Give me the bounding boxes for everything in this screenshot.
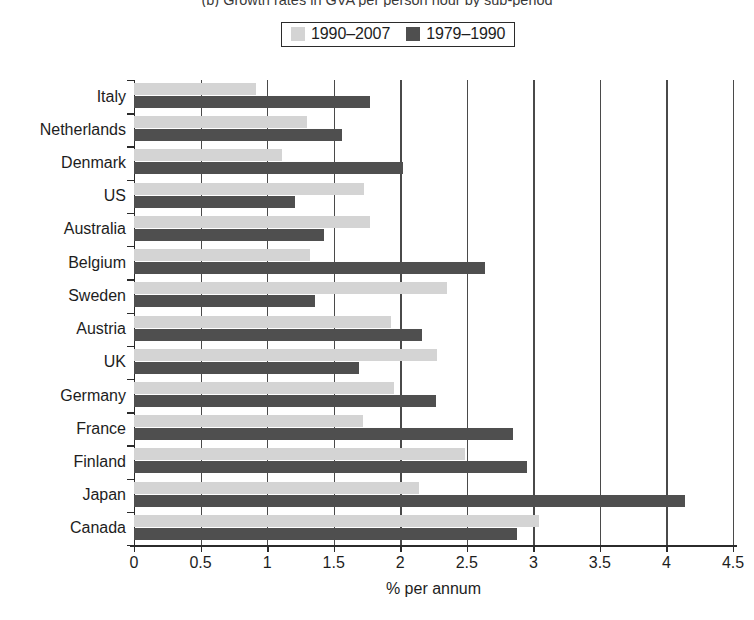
bar-1979-1990 bbox=[134, 395, 436, 407]
x-axis-tick bbox=[267, 545, 268, 552]
y-axis-tick bbox=[127, 180, 134, 181]
chart-legend: 1990–2007 1979–1990 bbox=[281, 22, 515, 47]
bar-group bbox=[134, 113, 733, 146]
y-axis-label-finland: Finland bbox=[74, 454, 126, 470]
y-axis-label-belgium: Belgium bbox=[68, 255, 126, 271]
bar-1990-2007 bbox=[134, 116, 307, 128]
x-axis-tick-label: 2.5 bbox=[456, 554, 478, 572]
bar-group bbox=[134, 445, 733, 478]
y-axis-label-italy: Italy bbox=[97, 89, 126, 105]
bar-1990-2007 bbox=[134, 149, 282, 161]
bar-1990-2007 bbox=[134, 349, 437, 361]
bar-group bbox=[134, 313, 733, 346]
chart-title: (b) Growth rates in GVA per person hour … bbox=[0, 0, 754, 7]
bar-1990-2007 bbox=[134, 249, 310, 261]
bar-1979-1990 bbox=[134, 229, 324, 241]
bar-1990-2007 bbox=[134, 183, 364, 195]
bar-1979-1990 bbox=[134, 96, 370, 108]
bar-group bbox=[134, 246, 733, 279]
y-axis-label-uk: UK bbox=[104, 354, 126, 370]
bar-group bbox=[134, 512, 733, 545]
bar-group bbox=[134, 146, 733, 179]
y-axis-tick bbox=[127, 246, 134, 247]
y-axis-tick bbox=[127, 213, 134, 214]
bar-group bbox=[134, 379, 733, 412]
x-axis-tick bbox=[733, 545, 734, 552]
x-axis-tick bbox=[201, 545, 202, 552]
bar-1979-1990 bbox=[134, 262, 485, 274]
y-axis-tick bbox=[127, 512, 134, 513]
y-axis-label-denmark: Denmark bbox=[61, 155, 126, 171]
y-axis-category-labels: ItalyNetherlandsDenmarkUSAustraliaBelgiu… bbox=[0, 80, 126, 545]
chart-root: (b) Growth rates in GVA per person hour … bbox=[0, 0, 754, 620]
bar-1979-1990 bbox=[134, 428, 513, 440]
bar-1979-1990 bbox=[134, 461, 527, 473]
legend-item-1990-2007: 1990–2007 bbox=[291, 26, 390, 42]
y-axis-tick bbox=[127, 279, 134, 280]
bar-1990-2007 bbox=[134, 216, 370, 228]
legend-label-1990-2007: 1990–2007 bbox=[311, 26, 390, 42]
y-axis-tick bbox=[127, 479, 134, 480]
bar-group bbox=[134, 213, 733, 246]
y-axis-tick bbox=[127, 445, 134, 446]
x-axis-tick-label: 3 bbox=[529, 554, 538, 572]
bar-1979-1990 bbox=[134, 196, 295, 208]
bar-1979-1990 bbox=[134, 329, 422, 341]
x-axis-tick bbox=[334, 545, 335, 552]
x-axis-tick-label: 2 bbox=[396, 554, 405, 572]
x-axis-tick bbox=[467, 545, 468, 552]
x-axis-tick bbox=[400, 545, 401, 552]
legend-label-1979-1990: 1979–1990 bbox=[426, 26, 505, 42]
light-gray-swatch-icon bbox=[291, 27, 305, 41]
y-axis-tick bbox=[127, 313, 134, 314]
y-axis-tick bbox=[127, 346, 134, 347]
y-axis-label-germany: Germany bbox=[60, 388, 126, 404]
y-axis-label-japan: Japan bbox=[82, 487, 126, 503]
x-axis-tick-label: 0 bbox=[130, 554, 139, 572]
x-axis-tick bbox=[134, 545, 135, 552]
gridline bbox=[733, 80, 734, 545]
bar-group bbox=[134, 180, 733, 213]
bar-1990-2007 bbox=[134, 83, 256, 95]
bar-1979-1990 bbox=[134, 295, 315, 307]
y-axis-label-canada: Canada bbox=[70, 520, 126, 536]
x-axis-title: % per annum bbox=[134, 580, 733, 598]
bar-group bbox=[134, 279, 733, 312]
x-axis-tick-label: 0.5 bbox=[189, 554, 211, 572]
bar-1990-2007 bbox=[134, 448, 465, 460]
bar-1979-1990 bbox=[134, 162, 403, 174]
bar-1990-2007 bbox=[134, 282, 447, 294]
legend-item-1979-1990: 1979–1990 bbox=[406, 26, 505, 42]
bar-group bbox=[134, 479, 733, 512]
x-axis-tick bbox=[600, 545, 601, 552]
bar-group bbox=[134, 80, 733, 113]
bar-1990-2007 bbox=[134, 382, 394, 394]
y-axis-label-netherlands: Netherlands bbox=[40, 122, 126, 138]
bar-group bbox=[134, 346, 733, 379]
y-axis-label-france: France bbox=[76, 421, 126, 437]
y-axis-label-sweden: Sweden bbox=[68, 288, 126, 304]
x-axis-tick-label: 4.5 bbox=[722, 554, 744, 572]
x-axis-tick-label: 3.5 bbox=[589, 554, 611, 572]
bar-1979-1990 bbox=[134, 495, 685, 507]
y-axis-tick bbox=[127, 80, 134, 81]
bar-1979-1990 bbox=[134, 129, 342, 141]
x-axis-tick bbox=[666, 545, 667, 552]
y-axis-tick bbox=[127, 412, 134, 413]
bar-1979-1990 bbox=[134, 528, 517, 540]
bar-1990-2007 bbox=[134, 316, 391, 328]
x-axis-line bbox=[130, 545, 737, 547]
bar-1990-2007 bbox=[134, 482, 419, 494]
y-axis-label-us: US bbox=[104, 188, 126, 204]
y-axis-label-austria: Austria bbox=[76, 321, 126, 337]
bar-1990-2007 bbox=[134, 515, 539, 527]
plot-area: 00.511.522.533.544.5 % per annum bbox=[134, 80, 733, 545]
x-axis-tick bbox=[533, 545, 534, 552]
x-axis-tick-label: 1 bbox=[263, 554, 272, 572]
x-axis-tick-label: 4 bbox=[662, 554, 671, 572]
dark-gray-swatch-icon bbox=[406, 27, 420, 41]
y-axis-label-australia: Australia bbox=[64, 221, 126, 237]
bar-1990-2007 bbox=[134, 415, 363, 427]
bar-group bbox=[134, 412, 733, 445]
x-axis-tick-label: 1.5 bbox=[323, 554, 345, 572]
